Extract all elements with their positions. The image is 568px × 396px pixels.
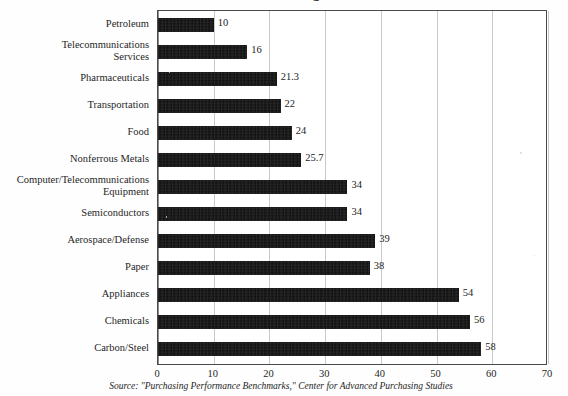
bar[interactable] [158, 180, 347, 194]
gridline-70 [548, 11, 549, 364]
bars-layer: 101621.3222425.734343938545658 [158, 11, 546, 364]
category-label: Nonferrous Metals [0, 153, 149, 166]
x-tick-label: 10 [207, 368, 218, 379]
category-label: Aerospace/Defense [0, 234, 149, 247]
bar-row[interactable]: 39 [158, 228, 546, 255]
bar[interactable] [158, 207, 347, 221]
bar-row[interactable]: 56 [158, 309, 546, 336]
x-tick-label: 30 [319, 368, 330, 379]
x-tick-label: 50 [430, 368, 441, 379]
category-label: Paper [0, 261, 149, 274]
bar-value-label: 34 [351, 205, 362, 219]
bar[interactable] [158, 18, 214, 32]
bar-value-label: 54 [463, 286, 474, 300]
bar-value-label: 22 [285, 97, 296, 111]
bar-value-label: 38 [374, 259, 385, 273]
bar[interactable] [158, 234, 375, 248]
category-label: Carbon/Steel [0, 342, 149, 355]
category-label: Transportation [0, 99, 149, 112]
bar[interactable] [158, 72, 277, 86]
bar-row[interactable]: 34 [158, 174, 546, 201]
x-axis-tick-labels: 010203040506070 [157, 368, 547, 382]
bar[interactable] [158, 315, 470, 329]
bar-value-label: 21.3 [281, 70, 299, 84]
bar-row[interactable]: 21.3 [158, 66, 546, 93]
category-label: Computer/Telecommunications Equipment [0, 174, 149, 199]
chart-title-clipped: Purchasing [0, 0, 568, 9]
x-tick-label: 20 [263, 368, 274, 379]
category-label: Semiconductors [0, 207, 149, 220]
x-tick-label: 60 [486, 368, 497, 379]
chart-title-text: Purchasing [0, 0, 568, 2]
category-label: Chemicals [0, 315, 149, 328]
category-label: Telecommunications Services [0, 39, 149, 64]
source-note: Source: "Purchasing Performance Benchmar… [0, 381, 562, 391]
bar[interactable] [158, 45, 247, 59]
bar-row[interactable]: 22 [158, 93, 546, 120]
bar[interactable] [158, 153, 301, 167]
bar-row[interactable]: 10 [158, 12, 546, 39]
bar-row[interactable]: 54 [158, 282, 546, 309]
bar-value-label: 10 [218, 16, 229, 30]
bar-row[interactable]: 24 [158, 120, 546, 147]
category-label: Appliances [0, 288, 149, 301]
x-tick-label: 70 [542, 368, 553, 379]
bar[interactable] [158, 99, 281, 113]
category-label: Pharmaceuticals [0, 72, 149, 85]
plot-area: 101621.3222425.734343938545658 [157, 10, 547, 365]
bar-value-label: 58 [485, 340, 496, 354]
category-axis-labels: PetroleumTelecommunications ServicesPhar… [0, 10, 153, 365]
bar-value-label: 16 [251, 43, 262, 57]
bar-row[interactable]: 16 [158, 39, 546, 66]
bar-row[interactable]: 25.7 [158, 147, 546, 174]
bar[interactable] [158, 261, 370, 275]
bar-value-label: 24 [296, 124, 307, 138]
x-tick-label: 0 [154, 368, 159, 379]
bar-value-label: 25.7 [305, 151, 323, 165]
bar-row[interactable]: 58 [158, 336, 546, 363]
bar-value-label: 39 [379, 232, 390, 246]
bar-value-label: 56 [474, 313, 485, 327]
bar[interactable] [158, 126, 292, 140]
bar-row[interactable]: 38 [158, 255, 546, 282]
x-tick-label: 40 [375, 368, 386, 379]
bar-value-label: 34 [351, 178, 362, 192]
bar-chart-figure: Purchasing PetroleumTelecommunications S… [0, 0, 568, 396]
bar-row[interactable]: 34 [158, 201, 546, 228]
category-label: Food [0, 126, 149, 139]
bar[interactable] [158, 288, 459, 302]
bar[interactable] [158, 342, 481, 356]
category-label: Petroleum [0, 18, 149, 31]
